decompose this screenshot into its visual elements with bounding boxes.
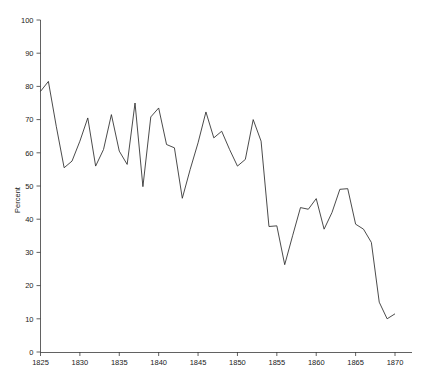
- x-tick-label: 1850: [229, 358, 246, 367]
- x-axis-ticks: 1825183018351840184518501855186018651870: [32, 352, 403, 367]
- y-tick-label: 70: [25, 115, 33, 124]
- y-axis-ticks: 0102030405060708090100: [21, 16, 41, 357]
- x-tick-label: 1845: [190, 358, 207, 367]
- y-tick-label: 40: [25, 215, 33, 224]
- y-tick-label: 50: [25, 182, 33, 191]
- x-tick-label: 1870: [387, 358, 404, 367]
- y-axis: 0102030405060708090100: [21, 16, 41, 357]
- x-tick-label: 1840: [150, 358, 167, 367]
- y-tick-label: 100: [21, 16, 34, 25]
- y-tick-label: 0: [29, 348, 33, 357]
- x-tick-label: 1855: [268, 358, 285, 367]
- y-tick-label: 30: [25, 248, 33, 257]
- y-tick-label: 10: [25, 315, 33, 324]
- x-tick-label: 1835: [111, 358, 128, 367]
- chart-container: 0102030405060708090100 18251830183518401…: [0, 0, 422, 380]
- y-tick-label: 80: [25, 82, 33, 91]
- y-tick-label: 60: [25, 149, 33, 158]
- x-tick-label: 1825: [32, 358, 49, 367]
- y-tick-label: 90: [25, 49, 33, 58]
- data-series-group: [41, 81, 396, 318]
- data-line-percent: [41, 81, 396, 318]
- line-chart: 0102030405060708090100 18251830183518401…: [0, 0, 422, 380]
- x-tick-label: 1830: [72, 358, 89, 367]
- y-tick-label: 20: [25, 281, 33, 290]
- y-axis-title: Percent: [13, 186, 22, 213]
- x-tick-label: 1865: [347, 358, 364, 367]
- x-axis: 1825183018351840184518501855186018651870: [32, 352, 412, 367]
- x-tick-label: 1860: [308, 358, 325, 367]
